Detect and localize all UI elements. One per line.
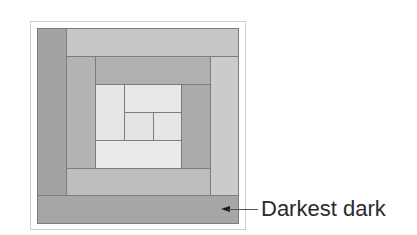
center-bottom-strip xyxy=(95,140,182,169)
darkest-dark-bottom-strip xyxy=(37,195,239,224)
center-right-strip xyxy=(153,112,182,141)
center-square xyxy=(124,112,154,141)
outer-top-strip xyxy=(66,28,239,57)
ring2-right-strip xyxy=(181,84,211,169)
darkest-dark-label: Darkest dark xyxy=(261,196,386,222)
center-left-strip xyxy=(95,84,125,141)
leader-line xyxy=(228,209,258,210)
center-top-strip xyxy=(124,84,182,113)
ring2-left-strip xyxy=(66,56,96,169)
ring2-top-strip xyxy=(95,56,211,85)
ring2-bottom-strip xyxy=(66,168,211,196)
outer-left-strip xyxy=(37,28,67,196)
outer-right-strip xyxy=(210,56,239,196)
